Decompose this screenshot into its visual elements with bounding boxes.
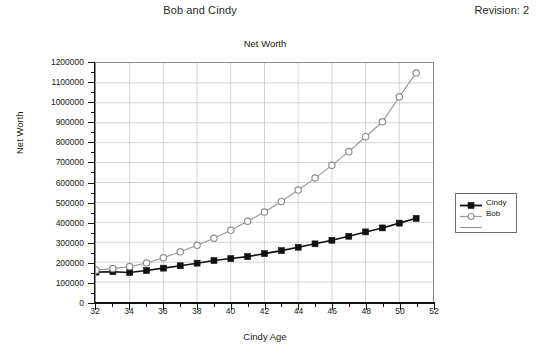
y-tick-label: 900000 [56, 117, 84, 127]
x-axis-label: Cindy Age [95, 331, 435, 342]
legend-symbol-none-icon [459, 219, 483, 230]
legend-label: Bob [486, 208, 500, 219]
x-tick-label: 50 [395, 306, 404, 316]
y-tick-label: 1000000 [51, 97, 84, 107]
plot-svg [96, 63, 433, 302]
y-tick-label: 600000 [56, 178, 84, 188]
legend-item[interactable]: Cindy [459, 197, 513, 208]
y-tick-label: 300000 [56, 238, 84, 248]
y-tick-label: 700000 [56, 157, 84, 167]
y-tick-label: 400000 [56, 218, 84, 228]
chart-legend: CindyBob [455, 193, 517, 233]
y-axis-tick-labels: 0100000200000300000400000500000600000700… [0, 62, 92, 303]
legend-item[interactable] [459, 219, 513, 230]
x-tick-label: 52 [429, 306, 438, 316]
chart-container: Net Worth Net Worth Cindy Age 0100000200… [0, 26, 543, 354]
x-tick-label: 34 [124, 306, 133, 316]
y-tick-label: 500000 [56, 198, 84, 208]
revision-label: Revision: 2 [475, 4, 529, 16]
y-tick-label: 1200000 [51, 57, 84, 67]
plot-area [95, 62, 434, 303]
chart-title: Net Worth [95, 38, 435, 49]
y-tick-label: 800000 [56, 137, 84, 147]
page-header: Bob and Cindy Revision: 2 [0, 0, 543, 26]
legend-label: Cindy [486, 197, 506, 208]
legend-symbol-filled-square-icon [459, 197, 483, 208]
y-tick-label: 200000 [56, 258, 84, 268]
y-tick-label: 0 [79, 298, 84, 308]
x-tick-label: 32 [90, 306, 99, 316]
legend-item[interactable]: Bob [459, 208, 513, 219]
x-tick-label: 40 [226, 306, 235, 316]
y-tick-label: 100000 [56, 278, 84, 288]
legend-symbol-open-circle-icon [459, 208, 483, 219]
x-tick-label: 36 [158, 306, 167, 316]
x-tick-label: 48 [361, 306, 370, 316]
y-tick-label: 1100000 [52, 77, 84, 87]
x-tick-label: 38 [192, 306, 201, 316]
x-tick-label: 44 [294, 306, 303, 316]
x-axis-tick-labels: 3234363840424446485052 [95, 306, 434, 320]
document-title: Bob and Cindy [0, 4, 400, 16]
x-tick-label: 46 [328, 306, 337, 316]
x-tick-label: 42 [260, 306, 269, 316]
